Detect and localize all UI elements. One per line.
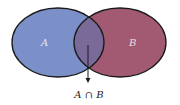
arrow-head-icon	[86, 78, 91, 83]
set-b-label: B	[128, 37, 136, 48]
intersection-label: A ∩ B	[73, 89, 103, 100]
set-a-label: A	[40, 37, 48, 48]
venn-diagram: A B A ∩ B	[0, 0, 180, 105]
